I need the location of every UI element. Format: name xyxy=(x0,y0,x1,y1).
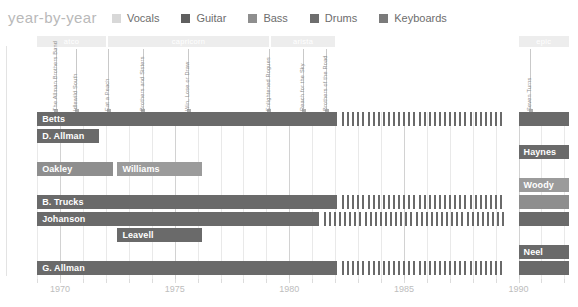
era-band-arista: arista xyxy=(271,36,335,47)
hiatus-tick xyxy=(434,112,436,126)
hiatus-tick xyxy=(439,261,441,275)
hiatus-tick xyxy=(339,212,341,226)
hiatus-tick xyxy=(472,212,474,226)
member-name-label: Oakley xyxy=(42,162,72,176)
hiatus-tick xyxy=(383,261,385,275)
hiatus-tick xyxy=(413,261,415,275)
hiatus-tick xyxy=(403,112,405,126)
legend-item-vocals[interactable]: Vocals xyxy=(112,12,159,24)
hiatus-tick xyxy=(405,212,407,226)
member-bar-g-allman[interactable] xyxy=(519,261,569,275)
hiatus-tick xyxy=(398,261,400,275)
legend-swatch-icon xyxy=(181,14,190,23)
x-tick xyxy=(60,279,61,283)
x-tick xyxy=(450,279,451,283)
legend-item-keyboards[interactable]: Keyboards xyxy=(379,12,447,24)
member-bar-b-trucks[interactable] xyxy=(519,195,569,209)
member-bar-d-allman[interactable]: D. Allman xyxy=(37,129,99,143)
album-title: Brothers and Sisters xyxy=(139,56,145,111)
year-by-year-timeline-chart: year-by-year VocalsGuitarBassDrumsKeyboa… xyxy=(0,0,578,307)
legend-swatch-icon xyxy=(379,14,388,23)
hiatus-tick xyxy=(475,195,477,209)
hiatus-tick xyxy=(454,112,456,126)
hiatus-tick xyxy=(419,112,421,126)
album-title: Reach for the Sky xyxy=(299,63,305,111)
hiatus-tick xyxy=(419,261,421,275)
hiatus-tick xyxy=(459,261,461,275)
member-bar-neel[interactable]: Neel xyxy=(519,245,569,259)
hiatus-tick xyxy=(373,195,375,209)
member-bar-betts[interactable]: Betts xyxy=(37,112,337,126)
legend-item-drums[interactable]: Drums xyxy=(310,12,357,24)
album-title: Brothers of the Road xyxy=(322,55,328,111)
hiatus-tick xyxy=(451,212,453,226)
hiatus-tick xyxy=(390,212,392,226)
hiatus-tick xyxy=(495,195,497,209)
hiatus-tick xyxy=(439,195,441,209)
member-bar-betts[interactable] xyxy=(519,112,569,126)
album-marker[interactable]: Reach for the Sky xyxy=(303,49,304,111)
hiatus-tick xyxy=(434,195,436,209)
legend-label: Guitar xyxy=(196,12,226,24)
hiatus-tick xyxy=(426,212,428,226)
hiatus-tick xyxy=(497,212,499,226)
hiatus-tick xyxy=(449,112,451,126)
album-marker[interactable]: Brothers of the Road xyxy=(326,49,327,111)
member-bars: BettsD. AllmanHaynesOakleyWilliamsWoodyB… xyxy=(28,112,569,279)
hiatus-tick xyxy=(492,212,494,226)
album-marker[interactable]: Idlewild South xyxy=(76,49,77,111)
hiatus-tick xyxy=(429,195,431,209)
member-bar-johanson[interactable] xyxy=(519,212,569,226)
hiatus-tick xyxy=(500,261,502,275)
hiatus-tick xyxy=(449,261,451,275)
hiatus-tick xyxy=(416,212,418,226)
x-tick xyxy=(266,279,267,283)
member-bar-johanson[interactable]: Johanson xyxy=(37,212,319,226)
x-tick xyxy=(83,279,84,283)
hiatus-tick xyxy=(490,195,492,209)
member-bar-williams[interactable]: Williams xyxy=(117,162,202,176)
x-tick-label: 1980 xyxy=(279,284,299,294)
x-axis: 19701975198019851990 xyxy=(28,279,569,307)
hiatus-tick xyxy=(357,261,359,275)
member-bar-b-trucks[interactable]: B. Trucks xyxy=(37,195,337,209)
album-marker[interactable]: Eat a Peach xyxy=(108,49,109,111)
hiatus-tick xyxy=(410,212,412,226)
hiatus-tick xyxy=(480,195,482,209)
hiatus-tick xyxy=(470,112,472,126)
x-tick xyxy=(335,279,336,283)
legend-item-guitar[interactable]: Guitar xyxy=(181,12,226,24)
hiatus-tick xyxy=(482,212,484,226)
member-bar-g-allman[interactable]: G. Allman xyxy=(37,261,337,275)
hiatus-tick xyxy=(378,112,380,126)
hiatus-tick xyxy=(344,212,346,226)
hiatus-tick xyxy=(413,112,415,126)
album-marker[interactable]: The Allman Brothers Band xyxy=(56,49,57,111)
hiatus-tick xyxy=(461,212,463,226)
member-bar-leavell[interactable]: Leavell xyxy=(117,228,202,242)
hiatus-tick xyxy=(464,261,466,275)
hiatus-tick xyxy=(342,195,344,209)
hiatus-tick xyxy=(395,212,397,226)
x-tick xyxy=(37,279,38,283)
page-title: year-by-year xyxy=(8,9,97,26)
x-tick-label: 1970 xyxy=(50,284,70,294)
member-bar-haynes[interactable]: Haynes xyxy=(519,145,569,159)
hiatus-tick xyxy=(368,261,370,275)
member-bar-oakley[interactable]: Oakley xyxy=(37,162,113,176)
member-name-label: D. Allman xyxy=(42,129,84,143)
left-axis-rule xyxy=(6,46,7,276)
hiatus-tick xyxy=(368,195,370,209)
legend-item-bass[interactable]: Bass xyxy=(248,12,287,24)
chart-header: year-by-year VocalsGuitarBassDrumsKeyboa… xyxy=(0,0,578,34)
x-tick xyxy=(243,279,244,283)
member-bar-woody[interactable]: Woody xyxy=(519,178,569,192)
album-marker[interactable]: Enlightened Rogues xyxy=(269,49,270,111)
hiatus-tick xyxy=(362,195,364,209)
hiatus-tick xyxy=(490,261,492,275)
x-tick xyxy=(381,279,382,283)
album-marker[interactable]: Win, Lose or Draw xyxy=(188,49,189,111)
album-title: Idlewild South xyxy=(72,73,78,111)
album-marker[interactable]: Brothers and Sisters xyxy=(143,49,144,111)
album-marker[interactable]: Seven Turns xyxy=(530,49,531,111)
